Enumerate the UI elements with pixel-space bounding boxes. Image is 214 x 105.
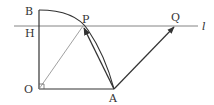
segment-op [39, 26, 83, 89]
label-q: Q [171, 11, 180, 24]
label-b: B [25, 5, 33, 18]
geometry-diagram: B H O P A Q l [0, 0, 214, 105]
label-o: O [24, 83, 33, 96]
label-l: l [202, 20, 206, 33]
label-h: H [25, 27, 35, 40]
vector-aq [114, 27, 174, 89]
vector-ap [84, 28, 114, 89]
label-a: A [108, 92, 118, 105]
label-p: P [82, 13, 90, 26]
arc-ba [39, 10, 114, 89]
